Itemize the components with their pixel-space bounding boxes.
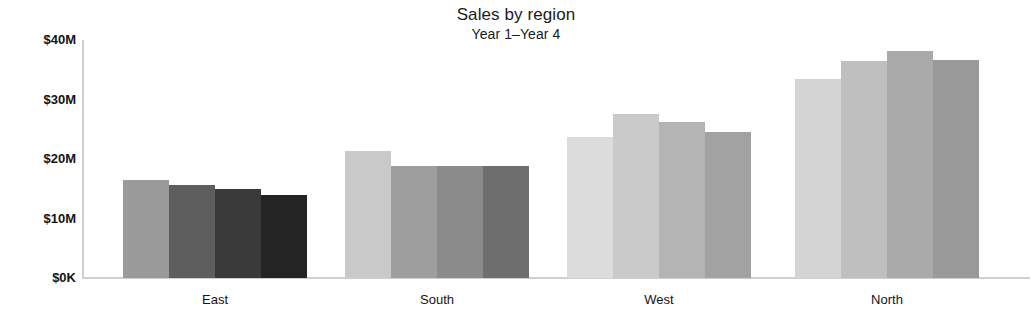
bar-north-year-2[interactable] xyxy=(841,61,887,278)
bar-south-year-1[interactable] xyxy=(345,151,391,278)
bar-west-year-2[interactable] xyxy=(613,114,659,278)
bar-east-year-1[interactable] xyxy=(123,180,169,278)
bar-west-year-3[interactable] xyxy=(659,122,705,278)
bar-east-year-3[interactable] xyxy=(215,189,261,278)
chart-container: Sales by region Year 1–Year 4 $40M$30M$2… xyxy=(0,0,1032,321)
bar-north-year-4[interactable] xyxy=(933,60,979,278)
y-axis-tick-label: $20M xyxy=(6,152,76,166)
x-axis-label-south: South xyxy=(345,292,529,308)
bar-east-year-4[interactable] xyxy=(261,195,307,278)
bar-west-year-4[interactable] xyxy=(705,132,751,278)
bar-south-year-3[interactable] xyxy=(437,166,483,278)
x-axis-label-east: East xyxy=(123,292,307,308)
chart-title: Sales by region xyxy=(0,4,1032,25)
bar-group-west xyxy=(567,40,751,278)
y-axis-tick-labels: $40M$30M$20M$10M$0K xyxy=(0,0,76,321)
bar-south-year-4[interactable] xyxy=(483,166,529,278)
bar-west-year-1[interactable] xyxy=(567,137,613,278)
bar-south-year-2[interactable] xyxy=(391,166,437,278)
bar-north-year-1[interactable] xyxy=(795,79,841,278)
x-axis-label-north: North xyxy=(795,292,979,308)
y-axis-tick-label: $0K xyxy=(6,271,76,285)
y-axis-tick-label: $40M xyxy=(6,33,76,47)
y-axis-tick-label: $30M xyxy=(6,93,76,107)
bar-east-year-2[interactable] xyxy=(169,185,215,278)
y-axis-tick-label: $10M xyxy=(6,212,76,226)
bar-north-year-3[interactable] xyxy=(887,51,933,278)
x-axis-label-west: West xyxy=(567,292,751,308)
bar-group-south xyxy=(345,40,529,278)
bar-group-north xyxy=(795,40,979,278)
bar-group-east xyxy=(123,40,307,278)
chart-title-block: Sales by region Year 1–Year 4 xyxy=(0,4,1032,43)
plot-area xyxy=(82,40,1030,278)
